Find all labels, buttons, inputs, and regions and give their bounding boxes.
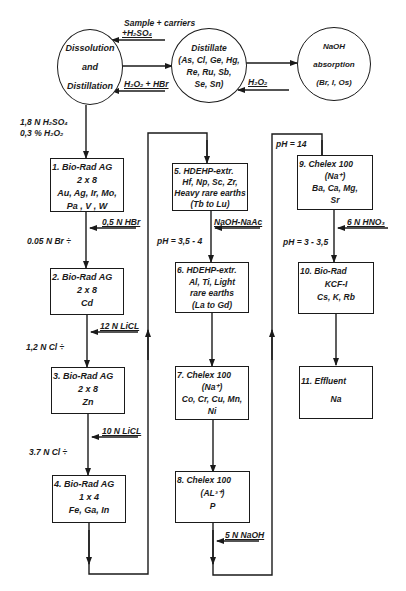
box-text: Ba, Ca, Mg, bbox=[298, 182, 372, 194]
box-2-bio-rad: 2. Bio-Rad AG 2 x 8 Cd bbox=[50, 268, 124, 315]
cl-12n-label: 1,2 N Cl ÷ bbox=[26, 342, 64, 352]
box-1-bio-rad: 1. Bio-Rad AG 2 x 8 Au, Ag, Ir, Mo, Pa ,… bbox=[50, 158, 124, 212]
box-title: 9. Chelex 100 bbox=[298, 158, 372, 170]
box-title: 3. Bio-Rad AG bbox=[52, 370, 124, 383]
box-text: (AL³⁺) bbox=[176, 487, 249, 500]
box-text: Cd bbox=[51, 297, 123, 310]
node-label: Re, Ru, Sb, bbox=[187, 66, 232, 78]
distillate-node: Distillate (As, Cl, Ge, Hg, Re, Ru, Sb, … bbox=[171, 28, 247, 103]
box-title: 8. Chelex 100 bbox=[176, 474, 249, 487]
box-title: 6. HDEHP-extr. bbox=[176, 265, 248, 277]
box-text: rare earths bbox=[176, 288, 248, 300]
box-text: Sr bbox=[298, 194, 372, 206]
box-title: 5. HDEHP-extr. bbox=[173, 166, 247, 177]
node-label: Se, Sn) bbox=[195, 78, 224, 90]
box-text: 2 x 8 bbox=[51, 284, 123, 297]
box-8-chelex: 8. Chelex 100 (AL³⁺) P bbox=[175, 471, 250, 523]
box-text: Hf, Np, Sc, Zr, bbox=[173, 177, 247, 188]
box-text: (Na⁺) bbox=[298, 170, 372, 182]
box-text: Au, Ag, Ir, Mo, bbox=[51, 187, 123, 200]
hbr-reagent-label: 0,5 N HBr bbox=[102, 217, 140, 227]
node-label: Distillate bbox=[191, 42, 226, 54]
node-label: and bbox=[82, 61, 98, 74]
h2o2-eluent-label: 0,3 % H₂O₂ bbox=[20, 128, 63, 138]
br-eluent-label: 0.05 N Br ÷ bbox=[27, 236, 71, 246]
h2so4-label: +H₂SO₄ bbox=[122, 28, 152, 38]
box-text: (Tb to Lu) bbox=[173, 199, 247, 210]
box-text: Ni bbox=[176, 405, 248, 417]
node-label: NaOH bbox=[323, 40, 345, 53]
sample-carriers-label: Sample + carriers bbox=[124, 18, 195, 28]
h2so4-eluent-label: 1,8 N H₂SO₄ bbox=[20, 117, 68, 127]
ph-35-4-label: pH = 3,5 - 4 bbox=[157, 236, 202, 246]
box-text: Fe, Ga, In bbox=[53, 504, 125, 517]
box-text: (La to Gd) bbox=[176, 300, 248, 312]
box-9-chelex: 9. Chelex 100 (Na⁺) Ba, Ca, Mg, Sr bbox=[297, 155, 373, 210]
licl-12n-label: 12 N LiCL bbox=[100, 321, 139, 331]
box-10-bio-rad: 10. Bio-Rad KCF-I Cs, K, Rb bbox=[298, 262, 374, 314]
box-text: KCF-I bbox=[299, 278, 373, 291]
box-title: 2. Bio-Rad AG bbox=[51, 271, 123, 284]
box-6-hdehp: 6. HDEHP-extr. Al, Ti, Light rare earths… bbox=[175, 262, 249, 313]
hno3-6n-label: 6 N HNO₃ bbox=[347, 217, 385, 227]
box-title: 4. Bio-Rad AG bbox=[53, 478, 125, 491]
box-7-chelex: 7. Chelex 100 (Na⁺) Co, Cr, Cu, Mn, Ni bbox=[175, 366, 249, 420]
ph-3-35-label: pH = 3 - 3,5 bbox=[283, 237, 328, 247]
ph-14-label: pH = 14 bbox=[276, 139, 306, 149]
box-text: 2 x 8 bbox=[51, 174, 123, 187]
naoh-absorption-node: NaOH absorption (Br, I, Os) bbox=[297, 27, 371, 101]
box-text: Cs, K, Rb bbox=[299, 291, 373, 304]
box-title: 1. Bio-Rad AG bbox=[51, 161, 123, 174]
box-text: Pa , V , W bbox=[51, 200, 123, 213]
box-text: Heavy rare earths bbox=[173, 188, 247, 199]
licl-10n-label: 10 N LiCL bbox=[102, 426, 141, 436]
box-text: Na bbox=[300, 390, 372, 408]
box-text: P bbox=[176, 500, 249, 513]
node-label: (As, Cl, Ge, Hg, bbox=[178, 54, 239, 66]
box-4-bio-rad: 4. Bio-Rad AG 1 x 4 Fe, Ga, In bbox=[52, 475, 126, 523]
box-text: Zn bbox=[52, 396, 124, 409]
node-label: Dissolution bbox=[66, 42, 115, 55]
dissolution-distillation-node: Dissolution and Distillation bbox=[57, 29, 123, 105]
box-title: 11. Effluent bbox=[300, 372, 372, 390]
naoh-5n-label: 5 N NaOH bbox=[225, 530, 264, 540]
cl-37n-label: 3.7 N Cl ÷ bbox=[29, 447, 67, 457]
node-label: Distillation bbox=[67, 80, 113, 93]
box-text: Co, Cr, Cu, Mn, bbox=[176, 393, 248, 405]
naoh-naac-label: NaOH-NaAc bbox=[214, 217, 262, 227]
box-text: (Na⁺) bbox=[176, 381, 248, 393]
box-3-bio-rad: 3. Bio-Rad AG 2 x 8 Zn bbox=[51, 367, 125, 414]
box-text: Al, Ti, Light bbox=[176, 277, 248, 289]
node-label: absorption bbox=[313, 58, 354, 71]
box-11-effluent: 11. Effluent Na bbox=[299, 366, 373, 419]
h2o2-hbr-label: H₂O₂ + HBr bbox=[124, 79, 169, 89]
box-text: 1 x 4 bbox=[53, 491, 125, 504]
node-label: (Br, I, Os) bbox=[316, 76, 352, 89]
box-title: 10. Bio-Rad bbox=[299, 265, 373, 278]
box-title: 7. Chelex 100 bbox=[176, 369, 248, 381]
h2o2-label: H₂O₂ bbox=[248, 77, 267, 87]
box-text: 2 x 8 bbox=[52, 383, 124, 396]
box-5-hdehp: 5. HDEHP-extr. Hf, Np, Sc, Zr, Heavy rar… bbox=[172, 163, 248, 211]
